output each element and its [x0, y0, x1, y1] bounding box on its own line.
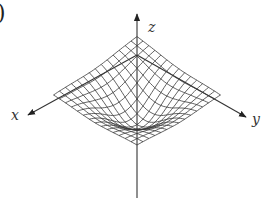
axes — [28, 14, 246, 198]
mesh-line — [137, 37, 221, 95]
mesh-line — [54, 37, 138, 95]
mesh-line — [125, 46, 209, 103]
y-axis-label: y — [252, 112, 260, 126]
surface-plot — [0, 0, 267, 198]
mesh-line — [65, 46, 148, 103]
z-axis-label: z — [148, 20, 155, 34]
x-axis-label: x — [11, 108, 19, 122]
